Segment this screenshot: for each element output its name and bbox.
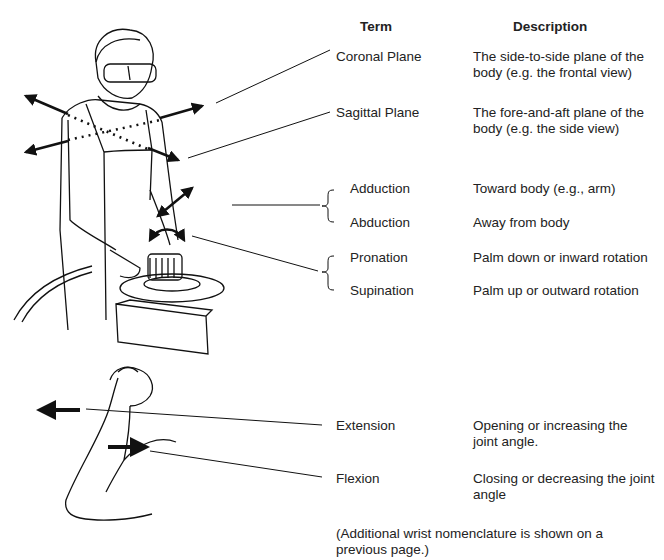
arm-illustration: [66, 367, 176, 520]
term-pronation: Pronation: [350, 250, 408, 266]
desc-sagittal-plane: The fore-and-aft plane of the body (e.g.…: [473, 105, 663, 137]
desc-flexion: Closing or decreasing the joint angle: [473, 471, 663, 503]
leader-lines: [86, 50, 330, 477]
desc-abduction: Away from body: [473, 215, 570, 231]
header-term: Term: [360, 19, 392, 35]
plane-arrows: [26, 96, 202, 240]
term-abduction: Abduction: [350, 215, 410, 231]
term-flexion: Flexion: [336, 471, 380, 487]
term-coronal-plane: Coronal Plane: [336, 49, 422, 65]
term-sagittal-plane: Sagittal Plane: [336, 105, 419, 121]
desc-adduction: Toward body (e.g., arm): [473, 181, 616, 197]
braces: [322, 190, 334, 290]
term-adduction: Adduction: [350, 181, 410, 197]
footnote: (Additional wrist nomenclature is shown …: [336, 526, 656, 558]
term-supination: Supination: [350, 283, 414, 299]
term-extension: Extension: [336, 418, 395, 434]
desc-pronation: Palm down or inward rotation: [473, 250, 648, 266]
desc-supination: Palm up or outward rotation: [473, 283, 639, 299]
desc-coronal-plane: The side-to-side plane of the body (e.g.…: [473, 49, 663, 81]
desc-extension: Opening or increasing the joint angle.: [473, 418, 653, 450]
header-description: Description: [513, 19, 587, 35]
worker-illustration: [14, 29, 224, 354]
